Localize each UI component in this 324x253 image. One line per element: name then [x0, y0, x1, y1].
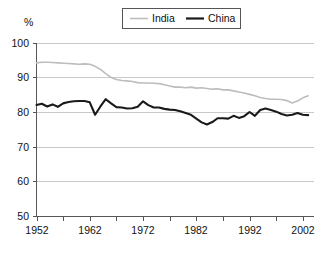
series-line-india — [37, 62, 309, 103]
x-tick-label-1962: 1962 — [78, 224, 102, 236]
series-group — [37, 62, 309, 124]
x-tick-label-1982: 1982 — [184, 224, 208, 236]
gridlines — [37, 44, 314, 217]
x-tick-labels: 1952 1962 1972 1982 1992 2002 — [25, 224, 315, 236]
x-tick-label-1992: 1992 — [238, 224, 262, 236]
legend-label-china[interactable]: China — [208, 12, 236, 24]
y-tick-marks — [33, 44, 37, 217]
y-tick-label-60: 60 — [17, 175, 29, 187]
y-tick-labels: 100 90 80 70 60 50 — [11, 37, 29, 222]
x-tick-marks — [38, 217, 304, 221]
chart-legend[interactable]: India China — [123, 9, 241, 29]
axes — [37, 43, 314, 217]
y-tick-label-90: 90 — [17, 71, 29, 83]
series-line-china — [37, 99, 309, 124]
y-axis-title: % — [24, 16, 33, 28]
y-tick-label-100: 100 — [11, 37, 29, 49]
y-tick-label-50: 50 — [17, 210, 29, 222]
x-tick-label-1972: 1972 — [131, 224, 155, 236]
x-tick-label-2002: 2002 — [291, 224, 315, 236]
chart-canvas: % 100 90 80 70 60 50 1952 1962 1972 1982… — [0, 0, 324, 253]
line-chart-figure: % 100 90 80 70 60 50 1952 1962 1972 1982… — [0, 0, 324, 253]
legend-label-india[interactable]: India — [152, 12, 175, 24]
y-tick-label-70: 70 — [17, 141, 29, 153]
y-tick-label-80: 80 — [17, 106, 29, 118]
x-tick-label-1952: 1952 — [25, 224, 49, 236]
